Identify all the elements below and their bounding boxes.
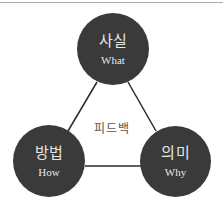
node-how-korean-label: 방법 (35, 144, 64, 162)
center-feedback-label: 피드백 (86, 119, 138, 136)
node-why: 의미 Why (140, 126, 211, 197)
node-how: 방법 How (13, 125, 85, 197)
node-what-korean-label: 사실 (99, 32, 128, 50)
node-why-english-label: Why (165, 165, 186, 179)
node-what-english-label: What (101, 53, 125, 67)
node-how-english-label: How (38, 165, 59, 179)
node-what: 사실 What (77, 13, 149, 85)
node-why-korean-label: 의미 (161, 144, 190, 162)
